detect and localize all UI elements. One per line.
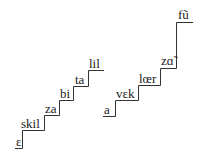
left-step-5-label: ta <box>75 72 85 87</box>
right-staircase-line <box>103 23 193 117</box>
left-step-3-label: za <box>45 101 57 116</box>
left-step-4-label: bi <box>60 86 71 101</box>
left-step-1-label: ɛ <box>16 134 22 149</box>
right-step-3-label: lœr <box>139 71 157 86</box>
left-staircase-line <box>15 71 104 149</box>
right-step-5-label: fũ <box>178 7 189 22</box>
right-step-2-label: vɛk <box>116 86 135 101</box>
staircase-diagram: ɛ skil za bi ta lil a vɛk lœr zɑ̃ fũ <box>0 0 207 159</box>
right-step-1-label: a <box>104 102 110 117</box>
right-step-4-label: zɑ̃ <box>161 53 179 68</box>
left-step-6-label: lil <box>89 56 100 71</box>
left-step-2-label: skil <box>21 116 40 131</box>
